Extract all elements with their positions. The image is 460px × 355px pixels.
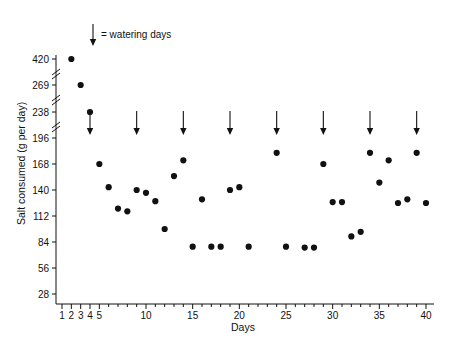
legend-label: = watering days <box>101 29 171 40</box>
data-point-day-2 <box>68 56 74 62</box>
watering-arrow-day-29 <box>320 111 326 135</box>
data-point-day-19 <box>227 187 233 193</box>
data-point-day-33 <box>358 229 364 235</box>
data-point-day-6 <box>106 184 112 190</box>
y-tick-label-269: 269 <box>32 80 49 91</box>
data-point-day-31 <box>339 199 345 205</box>
data-point-day-11 <box>152 198 158 204</box>
data-point-day-15 <box>190 244 196 250</box>
y-tick-label-420: 420 <box>32 54 49 65</box>
x-axis-tick-labels: 1234510152025303540 <box>59 310 432 321</box>
arrow-head-day-4 <box>87 128 93 135</box>
x-tick-label-30: 30 <box>327 310 339 321</box>
watering-arrow-day-34 <box>367 111 373 135</box>
data-point-day-25 <box>283 244 289 250</box>
data-point-day-40 <box>423 200 429 206</box>
x-tick-label-15: 15 <box>187 310 199 321</box>
data-point-day-21 <box>246 244 252 250</box>
data-point-day-30 <box>330 199 336 205</box>
watering-arrow-day-19 <box>227 111 233 135</box>
x-tick-label-25: 25 <box>280 310 292 321</box>
data-point-day-32 <box>348 233 354 239</box>
data-point-day-18 <box>218 244 224 250</box>
y-tick-label-28: 28 <box>38 289 50 300</box>
data-point-day-7 <box>115 205 121 211</box>
y-tick-label-196: 196 <box>32 133 49 144</box>
data-point-day-12 <box>162 226 168 232</box>
chart-canvas: 285684112140168196238269420 123451015202… <box>0 0 460 355</box>
y-tick-label-140: 140 <box>32 185 49 196</box>
watering-day-arrows <box>87 111 420 135</box>
data-point-day-24 <box>274 150 280 156</box>
x-tick-label-1: 1 <box>59 310 65 321</box>
arrow-head-day-29 <box>320 128 326 135</box>
x-tick-label-35: 35 <box>374 310 386 321</box>
arrow-head-day-19 <box>227 128 233 135</box>
watering-arrow-day-24 <box>273 111 279 135</box>
axes-group <box>56 55 434 304</box>
arrow-head-day-14 <box>180 128 186 135</box>
arrow-head-day-34 <box>367 128 373 135</box>
y-axis-title: Salt consumed (g per day) <box>15 102 27 225</box>
watering-arrow-day-14 <box>180 111 186 135</box>
legend-arrow-head <box>90 39 96 46</box>
y-tick-label-168: 168 <box>32 159 49 170</box>
x-tick-label-40: 40 <box>420 310 432 321</box>
legend-group: = watering days <box>90 24 172 46</box>
y-tick-label-112: 112 <box>33 211 49 222</box>
y-axis-tick-labels: 285684112140168196238269420 <box>32 54 49 300</box>
data-point-day-34 <box>367 150 373 156</box>
data-point-day-10 <box>143 190 149 196</box>
data-point-day-14 <box>180 157 186 163</box>
x-tick-label-20: 20 <box>234 310 246 321</box>
data-point-day-28 <box>311 244 317 250</box>
x-axis-title: Days <box>231 321 255 333</box>
ticks-group <box>52 59 426 309</box>
data-points-group <box>68 56 429 251</box>
x-tick-label-10: 10 <box>140 310 152 321</box>
data-point-day-35 <box>376 179 382 185</box>
arrow-head-day-24 <box>273 128 279 135</box>
data-point-day-37 <box>395 200 401 206</box>
data-point-day-29 <box>320 161 326 167</box>
x-tick-label-5: 5 <box>97 310 103 321</box>
data-point-day-9 <box>134 187 140 193</box>
y-tick-label-84: 84 <box>38 237 50 248</box>
arrow-head-day-39 <box>413 128 419 135</box>
arrow-head-day-9 <box>133 128 139 135</box>
y-tick-label-56: 56 <box>38 263 50 274</box>
data-point-day-27 <box>302 244 308 250</box>
data-point-day-4 <box>87 109 93 115</box>
data-point-day-3 <box>78 82 84 88</box>
watering-arrow-day-9 <box>133 111 139 135</box>
data-point-day-38 <box>404 196 410 202</box>
data-point-day-36 <box>386 157 392 163</box>
data-point-day-13 <box>171 173 177 179</box>
x-tick-label-2: 2 <box>69 310 75 321</box>
y-tick-label-238: 238 <box>32 107 49 118</box>
data-point-day-20 <box>236 184 242 190</box>
scatter-chart: 285684112140168196238269420 123451015202… <box>0 0 460 355</box>
data-point-day-39 <box>414 150 420 156</box>
x-tick-label-3: 3 <box>78 310 84 321</box>
data-point-day-17 <box>208 244 214 250</box>
data-point-day-8 <box>124 208 130 214</box>
data-point-day-16 <box>199 196 205 202</box>
watering-arrow-day-39 <box>413 111 419 135</box>
x-tick-label-4: 4 <box>87 310 93 321</box>
data-point-day-5 <box>96 161 102 167</box>
